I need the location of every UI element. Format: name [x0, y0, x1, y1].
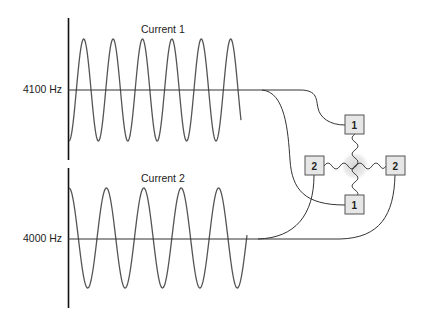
- interference-crossing: [324, 134, 386, 197]
- current-1-baseline: [68, 90, 345, 125]
- electrode-bottom-1: 1: [345, 195, 364, 214]
- current-1-label: Current 1: [141, 23, 185, 35]
- current-2-panel: Current 2 4000 Hz: [23, 168, 395, 308]
- electrode-top-1: 1: [345, 115, 364, 134]
- current-2-wire-to-left-electrode: [258, 175, 314, 239]
- electrode-bottom-label: 1: [352, 200, 358, 211]
- electrode-right-2: 2: [386, 156, 405, 175]
- electrode-left-label: 2: [312, 161, 318, 172]
- electrode-left-2: 2: [305, 156, 324, 175]
- current-2-sine-wave: [69, 188, 247, 288]
- electrode-right-label: 2: [393, 161, 399, 172]
- current-2-label: Current 2: [141, 172, 185, 184]
- current-1-frequency-label: 4100 Hz: [23, 83, 62, 95]
- interferential-current-diagram: Current 1 4100 Hz Current 2 4000 Hz 1 2: [0, 0, 436, 328]
- current-2-frequency-label: 4000 Hz: [23, 232, 62, 244]
- electrode-top-label: 1: [352, 120, 358, 131]
- current-1-wire-to-bottom-electrode: [262, 90, 345, 205]
